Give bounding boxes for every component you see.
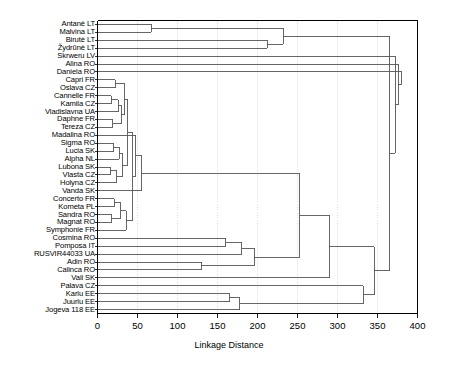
x-axis-tick-label: 100	[170, 320, 186, 331]
x-axis-tick-label: 250	[290, 320, 306, 331]
x-axis-tick-label: 150	[210, 320, 226, 331]
x-axis-title: Linkage Distance	[0, 340, 458, 350]
x-axis-tick-label: 300	[330, 320, 346, 331]
x-axis-tick-label: 200	[250, 320, 266, 331]
x-axis-tick-label: 0	[95, 320, 100, 331]
dendrogram-plot: 050100150200250300350400	[0, 0, 458, 369]
x-axis-tick-label: 50	[132, 320, 143, 331]
x-axis-tick-label: 350	[370, 320, 386, 331]
dendrogram-figure: Antanė LTMalvina LTBirutė LTŽydrūnė LTSk…	[0, 0, 458, 369]
x-axis-tick-label: 400	[410, 320, 426, 331]
